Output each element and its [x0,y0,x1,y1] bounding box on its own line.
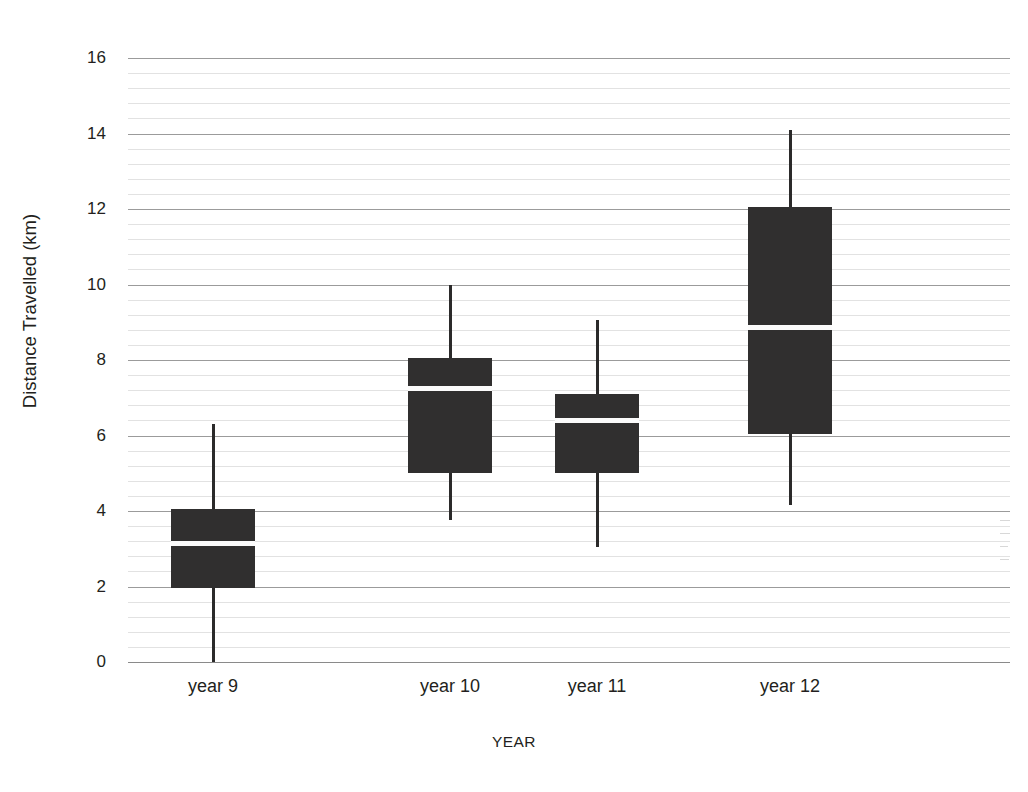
x-axis-title: YEAR [0,733,1028,751]
minor-gridline [128,179,1010,180]
box-year-11 [555,394,639,473]
minor-gridline [128,88,1010,89]
major-gridline [128,587,1010,588]
y-tick-label: 10 [6,276,106,293]
plot-area [128,58,1010,662]
minor-gridline [128,617,1010,618]
x-tick-label-year-12: year 12 [700,676,880,697]
scan-artifact [1000,533,1010,534]
y-tick-label: 14 [6,125,106,142]
y-tick-label: 4 [6,502,106,519]
minor-gridline [128,556,1010,557]
y-tick-label: 12 [6,200,106,217]
major-gridline [128,209,1010,210]
y-tick-label: 0 [6,653,106,670]
y-axis-tick-labels: 0246810121416 [0,0,118,792]
scan-artifact [1000,546,1008,547]
minor-gridline [128,526,1010,527]
x-axis-line [128,662,1010,663]
minor-gridline [128,647,1010,648]
box-year-12 [748,207,832,434]
box-year-9 [171,509,255,588]
minor-gridline [128,315,1010,316]
box-year-10 [408,358,492,473]
major-gridline [128,360,1010,361]
major-gridline [128,134,1010,135]
minor-gridline [128,541,1010,542]
minor-gridline [128,164,1010,165]
minor-gridline [128,602,1010,603]
y-tick-label: 2 [6,578,106,595]
minor-gridline [128,118,1010,119]
median-line [748,325,832,330]
minor-gridline [128,149,1010,150]
minor-gridline [128,481,1010,482]
minor-gridline [128,632,1010,633]
minor-gridline [128,300,1010,301]
major-gridline [128,58,1010,59]
minor-gridline [128,73,1010,74]
minor-gridline [128,224,1010,225]
minor-gridline [128,390,1010,391]
median-line [408,386,492,391]
x-tick-label-year-11: year 11 [507,676,687,697]
scan-artifact [1000,559,1009,560]
minor-gridline [128,330,1010,331]
y-tick-label: 6 [6,427,106,444]
minor-gridline [128,496,1010,497]
major-gridline [128,285,1010,286]
y-tick-label: 8 [6,351,106,368]
scan-artifact [1000,520,1010,521]
minor-gridline [128,103,1010,104]
x-tick-label-year-9: year 9 [123,676,303,697]
minor-gridline [128,254,1010,255]
major-gridline [128,511,1010,512]
y-tick-label: 16 [6,49,106,66]
median-line [171,541,255,546]
minor-gridline [128,239,1010,240]
minor-gridline [128,345,1010,346]
minor-gridline [128,375,1010,376]
minor-gridline [128,571,1010,572]
minor-gridline [128,194,1010,195]
box-plot-figure: Distance Travelled (km) 0246810121416 ye… [0,0,1028,792]
median-line [555,418,639,423]
minor-gridline [128,269,1010,270]
